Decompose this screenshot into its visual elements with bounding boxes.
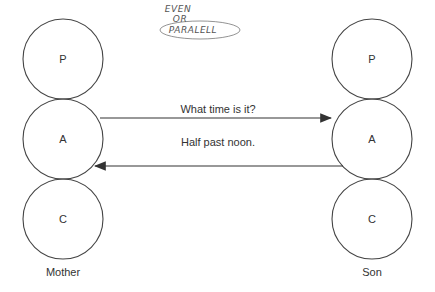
mother-child-label: C	[59, 213, 67, 225]
son-parent-label: P	[368, 53, 375, 65]
son-child-label: C	[368, 213, 376, 225]
response-label: Half past noon.	[181, 136, 255, 148]
mother-label: Mother	[46, 266, 80, 278]
mother-adult-label: A	[59, 133, 66, 145]
annotation-line-1: EVEN	[165, 4, 191, 14]
mother-parent-label: P	[59, 53, 66, 65]
stimulus-label: What time is it?	[180, 103, 255, 115]
annotation-line-2: OR	[173, 14, 187, 24]
son-adult-label: A	[368, 133, 375, 145]
annotation-line-3: PARALELL	[169, 25, 217, 35]
son-label: Son	[362, 266, 382, 278]
